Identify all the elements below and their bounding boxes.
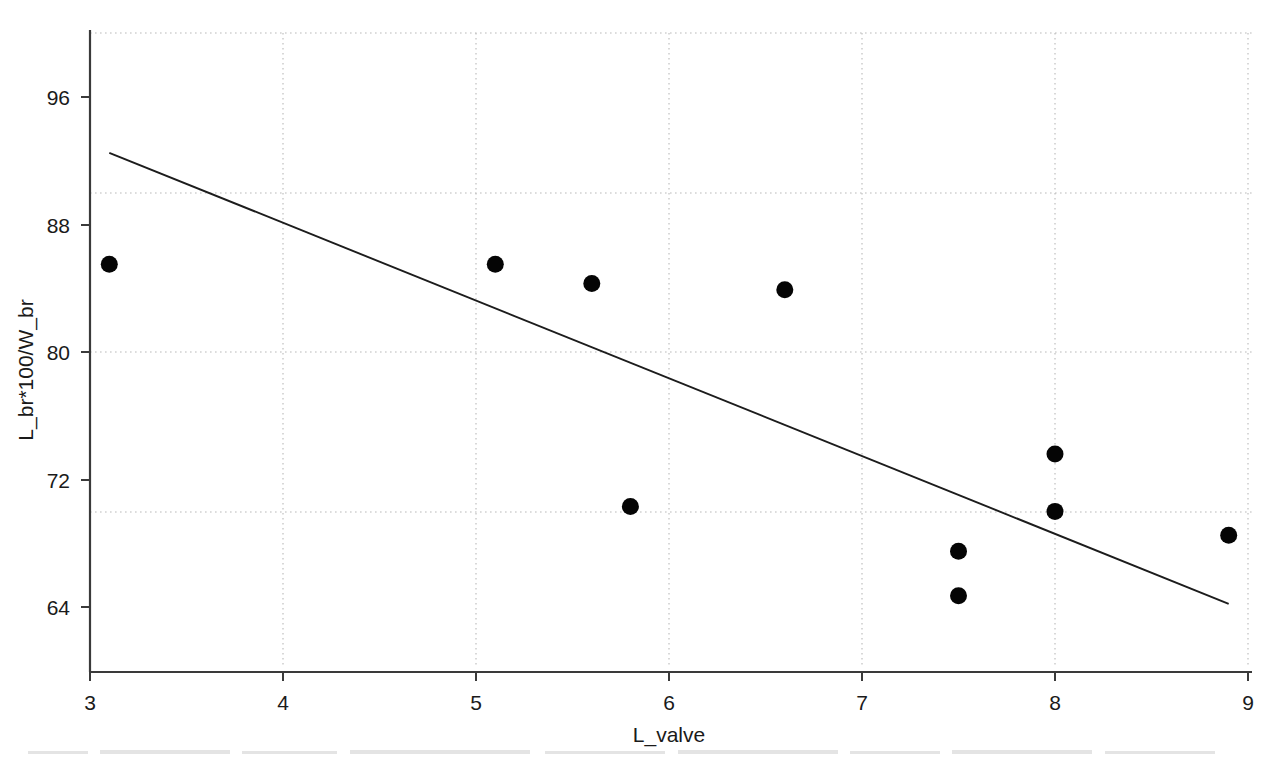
y-tick-label-88: 88 bbox=[47, 214, 70, 237]
data-point bbox=[1047, 446, 1064, 463]
x-tick-label-3: 3 bbox=[84, 691, 96, 714]
y-tick-label-64: 64 bbox=[47, 596, 71, 619]
data-point bbox=[583, 275, 600, 292]
chart-svg: 96 88 80 72 64 3 4 5 6 7 8 9 L_valve L_b… bbox=[0, 0, 1280, 759]
x-tick-label-5: 5 bbox=[470, 691, 482, 714]
data-point bbox=[1220, 527, 1237, 544]
chart-background bbox=[0, 0, 1280, 759]
x-tick-label-8: 8 bbox=[1049, 691, 1061, 714]
x-tick-label-6: 6 bbox=[663, 691, 675, 714]
x-axis-title: L_valve bbox=[633, 723, 705, 747]
data-point bbox=[487, 256, 504, 273]
data-point bbox=[101, 256, 118, 273]
data-point bbox=[950, 587, 967, 604]
x-tick-label-7: 7 bbox=[856, 691, 868, 714]
y-tick-label-80: 80 bbox=[47, 341, 70, 364]
y-tick-label-96: 96 bbox=[47, 86, 70, 109]
x-tick-label-4: 4 bbox=[277, 691, 289, 714]
data-point bbox=[622, 498, 639, 515]
scatter-plot-figure: 96 88 80 72 64 3 4 5 6 7 8 9 L_valve L_b… bbox=[0, 0, 1280, 759]
data-point bbox=[1047, 503, 1064, 520]
data-point bbox=[950, 543, 967, 560]
data-point bbox=[776, 281, 793, 298]
y-tick-label-72: 72 bbox=[47, 469, 70, 492]
y-axis-title: L_br*100/W_br bbox=[14, 299, 38, 440]
x-tick-label-9: 9 bbox=[1242, 691, 1254, 714]
